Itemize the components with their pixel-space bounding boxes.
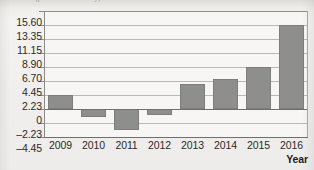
y-axis-tick-label: 4.45: [2, 87, 42, 98]
y-axis-tick-label: 8.90: [2, 59, 42, 70]
x-axis-tick-label-2012: 2012: [148, 139, 171, 151]
y-axis-tick-label: –2.23: [2, 129, 42, 140]
bar-2011: [114, 109, 139, 130]
y-axis-tick-label: 2.23: [2, 101, 42, 112]
plot-frame-top: [44, 11, 308, 12]
x-axis-title: Year: [286, 153, 308, 165]
y-axis-line: [44, 11, 45, 137]
y-axis-tick-label: –4.45: [2, 143, 42, 154]
x-axis-tick-label-2014: 2014: [214, 139, 237, 151]
y-axis-tick-label: 11.15: [2, 45, 42, 56]
x-axis-tick-label-2013: 2013: [181, 139, 204, 151]
x-axis-tick-label-2010: 2010: [82, 139, 105, 151]
y-axis-tick-label: 6.70: [2, 73, 42, 84]
plot-area: [44, 11, 308, 137]
y-axis-tick-label: 13.35: [2, 31, 42, 42]
x-axis-tick-label-2016: 2016: [280, 139, 303, 151]
x-axis-tick-label-2011: 2011: [115, 139, 137, 151]
clipped-title-text: Unit (percent annually): [18, 0, 101, 2]
bar-2016: [279, 25, 304, 109]
x-axis-tick-label-2015: 2015: [247, 139, 270, 151]
bar-2010: [81, 109, 106, 117]
y-axis-labels: 15.6013.3511.158.906.704.452.230–2.23–4.…: [0, 11, 42, 137]
y-axis-tick-label: 0: [2, 115, 42, 126]
bar-2009: [48, 95, 73, 109]
gridline-0: [44, 109, 308, 110]
x-axis-labels: 20092010201120122013201420152016: [44, 139, 308, 155]
bar-2014: [213, 79, 238, 109]
chart-screenshot: Unit (percent annually) 15.6013.3511.158…: [0, 0, 314, 170]
bar-2015: [246, 67, 271, 109]
y-axis-tick-label: 15.60: [2, 17, 42, 28]
plot-frame-right: [307, 11, 308, 137]
bar-2013: [180, 84, 205, 109]
bar-series: [44, 11, 308, 137]
gridline-445: [44, 137, 308, 138]
x-axis-tick-label-2009: 2009: [49, 139, 72, 151]
